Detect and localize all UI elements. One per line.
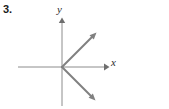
vector-lower-right-shaft xyxy=(62,67,91,96)
y-axis-label: y xyxy=(57,4,62,15)
x-axis-label: x xyxy=(111,57,116,68)
vector-diagram-figure: 3. y x xyxy=(0,0,169,109)
coordinate-plane-graphic xyxy=(0,0,169,109)
x-axis-arrowhead-icon xyxy=(104,64,110,71)
y-axis-arrowhead-icon xyxy=(59,18,65,24)
vector-upper-right-shaft xyxy=(62,37,92,67)
